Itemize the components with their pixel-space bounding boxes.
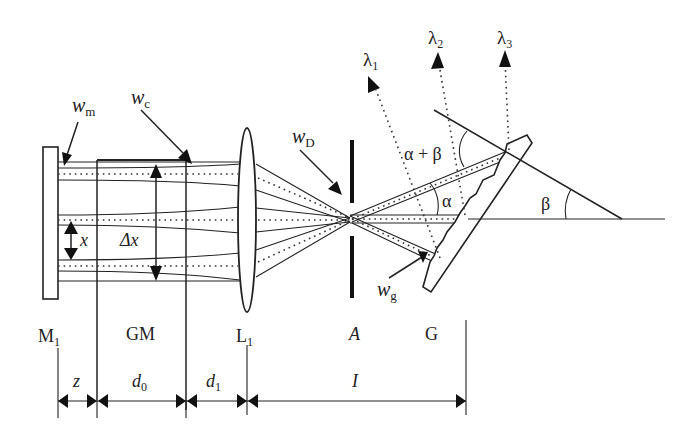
distance-d1-label: d1 <box>206 371 221 394</box>
distance-z-label: z <box>72 371 80 391</box>
x-arrow <box>64 221 78 260</box>
x-label: x <box>79 230 88 250</box>
distance-i-label: I <box>351 371 359 391</box>
lambda3-arrowhead-icon <box>499 50 511 67</box>
distance-d0-label: d0 <box>132 371 147 394</box>
delta-x-label: Δx <box>119 230 139 250</box>
lambda1-label: λ1 <box>363 49 378 73</box>
wg-arrowhead-icon <box>418 251 428 263</box>
mirror-m1 <box>43 147 58 299</box>
grating-g-label: G <box>425 324 438 344</box>
beta-label: β <box>541 194 550 214</box>
alpha-plus-beta-label: α + β <box>404 144 442 164</box>
mirror-m1-label: M1 <box>38 326 60 349</box>
gain-medium <box>97 160 186 410</box>
wc-label: wc <box>131 86 150 111</box>
gain-medium-label: GM <box>126 324 155 344</box>
wm-label: wm <box>72 94 95 119</box>
wd-arrowhead-icon <box>328 181 342 195</box>
lambda2-label: λ2 <box>428 27 443 51</box>
aperture-a-label: A <box>348 324 361 344</box>
lens-l1-label: L1 <box>236 326 253 349</box>
resonator-beams <box>58 162 240 281</box>
lambda1-arrowhead-icon <box>368 76 380 93</box>
lens-l1 <box>238 128 256 312</box>
focusing-beams <box>256 164 350 277</box>
lambda3-label: λ3 <box>497 27 512 51</box>
alpha-label: α <box>442 191 452 211</box>
optical-diagram: wm wc wD wg x Δx λ1 λ2 λ3 α + β α β M1 G… <box>0 0 695 439</box>
dimension-lines <box>58 320 466 418</box>
wd-label: wD <box>292 125 315 150</box>
lambda2-arrowhead-icon <box>431 52 444 69</box>
wg-label: wg <box>377 278 397 303</box>
wm-arrowhead-icon <box>62 152 72 166</box>
